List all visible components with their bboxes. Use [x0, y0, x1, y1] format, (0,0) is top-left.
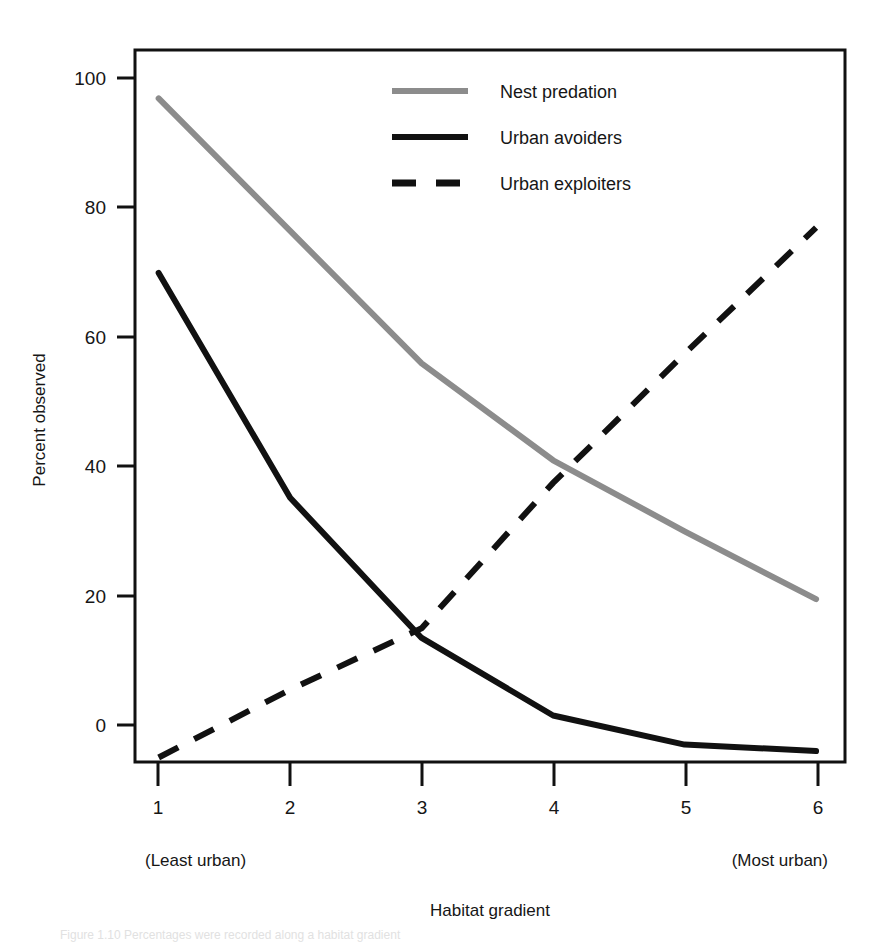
y-axis-title: Percent observed: [30, 353, 49, 486]
x-tick-label-1: 1: [153, 797, 164, 818]
x-tick-label-6: 6: [813, 797, 824, 818]
y-tick-label-0: 0: [95, 715, 106, 736]
x-tick-label-3: 3: [417, 797, 428, 818]
x-tick-label-2: 2: [285, 797, 296, 818]
least-urban-note: (Least urban): [145, 851, 246, 870]
y-tick-label-100: 100: [74, 68, 106, 89]
x-axis-ticks: [158, 762, 818, 786]
chart-legend: Nest predation Urban avoiders Urban expl…: [392, 82, 631, 194]
y-tick-label-80: 80: [85, 197, 106, 218]
y-tick-label-60: 60: [85, 327, 106, 348]
x-tick-label-4: 4: [549, 797, 560, 818]
legend-label-urban-exploiters: Urban exploiters: [500, 174, 631, 194]
y-tick-label-40: 40: [85, 456, 106, 477]
x-tick-label-5: 5: [681, 797, 692, 818]
figure-caption-fragment: Figure 1.10 Percentages were recorded al…: [60, 928, 850, 942]
line-chart: 0 20 40 60 80 100 1 2 3 4 5 6: [0, 0, 885, 947]
y-axis-ticks: [117, 78, 135, 725]
series-line-nest-predation: [159, 98, 816, 599]
x-axis-tick-labels: 1 2 3 4 5 6: [153, 797, 824, 818]
most-urban-note: (Most urban): [732, 851, 828, 870]
y-tick-label-20: 20: [85, 586, 106, 607]
series-line-urban-avoiders: [159, 273, 816, 751]
plot-frame: [135, 50, 845, 762]
legend-label-nest-predation: Nest predation: [500, 82, 617, 102]
legend-label-urban-avoiders: Urban avoiders: [500, 128, 622, 148]
y-axis-tick-labels: 0 20 40 60 80 100: [74, 68, 106, 736]
figure-container: 0 20 40 60 80 100 1 2 3 4 5 6: [0, 0, 885, 947]
x-axis-title: Habitat gradient: [430, 901, 550, 920]
